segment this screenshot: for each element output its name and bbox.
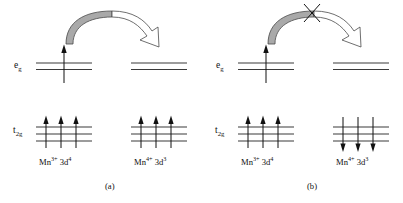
ion-label-a-left: Mn3+ 3d4 xyxy=(39,155,71,167)
t2g-spins-a-right xyxy=(138,116,173,149)
spin-arrowhead-up xyxy=(245,116,250,125)
figure-canvas: eg t2g Mn3+ 3d4 Mn4+ 3d3 (a) eg t2g Mn3+… xyxy=(0,0,403,203)
spin-up-1 xyxy=(245,116,250,149)
hopping-arrow-a-open-segment xyxy=(112,11,159,47)
eg-spin-up-b-left xyxy=(263,45,268,84)
spin-up-2 xyxy=(260,116,265,149)
t2g-level-a-left xyxy=(36,127,92,141)
spin-arrowhead-up xyxy=(138,116,143,125)
spin-arrowhead-up xyxy=(263,45,268,54)
spin-arrowhead-down xyxy=(370,144,375,153)
spin-arrowhead-up xyxy=(58,116,63,125)
ion-label-b-right: Mn4+ 3d3 xyxy=(336,155,368,167)
ion-label-a-right: Mn4+ 3d3 xyxy=(134,155,166,167)
spin-up-1 xyxy=(138,116,143,149)
t2g-label-b: t2g xyxy=(215,125,224,137)
hopping-arrow-b xyxy=(268,4,361,47)
spin-arrowhead-down xyxy=(340,144,345,153)
spin-up-3 xyxy=(73,116,78,149)
t2g-spins-b-left xyxy=(245,116,280,149)
spin-up-2 xyxy=(58,116,63,149)
hopping-arrow-b-gray-segment xyxy=(268,11,314,44)
spin-arrowhead-up xyxy=(43,116,48,125)
t2g-level-b-right xyxy=(333,127,389,141)
eg-level-b-right xyxy=(333,63,389,70)
spin-arrowhead-up xyxy=(275,116,280,125)
spin-arrowhead-down xyxy=(355,144,360,153)
spin-up-1 xyxy=(43,116,48,149)
t2g-level-a-right xyxy=(131,127,187,141)
spin-arrowhead-up xyxy=(61,45,66,54)
t2g-level-b-left xyxy=(238,127,294,141)
spin-arrowhead-up xyxy=(153,116,158,125)
ion-label-b-left: Mn3+ 3d4 xyxy=(241,155,273,167)
spin-arrowhead-up xyxy=(168,116,173,125)
eg-level-a-right xyxy=(131,63,187,70)
spin-up-3 xyxy=(168,116,173,149)
eg-label-a: eg xyxy=(14,60,22,72)
hopping-arrow-a xyxy=(66,11,159,47)
hopping-arrow-b-open-segment xyxy=(314,11,361,47)
panel-a-graphics xyxy=(0,0,403,203)
spin-arrowhead-up xyxy=(73,116,78,125)
eg-label-b: eg xyxy=(216,60,224,72)
eg-spin-up-a-left xyxy=(61,45,66,84)
panel-caption-b: (b) xyxy=(307,181,317,191)
spin-up-3 xyxy=(275,116,280,149)
panel-caption-a: (a) xyxy=(105,181,115,191)
spin-arrowhead-up xyxy=(260,116,265,125)
t2g-spins-a-left xyxy=(43,116,78,149)
hopping-arrow-a-gray-segment xyxy=(66,11,112,44)
t2g-label-a: t2g xyxy=(13,125,22,137)
spin-up-2 xyxy=(153,116,158,149)
